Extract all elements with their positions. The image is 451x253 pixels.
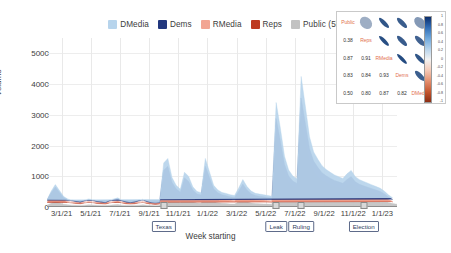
correlation-value: 0.91 (357, 50, 375, 68)
colorbar-tick-label: 0.6 (438, 31, 443, 35)
legend-label-dems: Dems (170, 20, 192, 29)
y-tick-label: 4000 (9, 80, 49, 89)
x-tick-label: 11/1/21 (166, 209, 191, 218)
event-marker (360, 202, 367, 209)
correlation-diagonal-label: Dems (393, 67, 411, 85)
legend-item-rmedia[interactable]: RMedia (201, 20, 242, 29)
correlation-value: 0.80 (357, 85, 375, 103)
correlation-ellipse (357, 14, 375, 32)
legend-swatch-reps (251, 20, 260, 29)
event-label-box[interactable]: Texas (152, 221, 176, 232)
correlation-value: 0.84 (357, 67, 375, 85)
event-label-box[interactable]: Election (349, 221, 379, 232)
y-tick-label: 0 (9, 203, 49, 212)
x-axis-title-text: Week starting (186, 232, 236, 241)
x-tick-label: 1/1/22 (197, 209, 218, 218)
y-tick-label: 1000 (9, 172, 49, 181)
correlation-value: 0.50 (339, 85, 357, 103)
legend-label-dmedia: DMedia (120, 20, 149, 29)
correlation-value: 0.87 (375, 85, 393, 103)
legend-swatch-dems (158, 20, 167, 29)
correlation-grid: Public0.38Reps0.870.91RMedia0.830.840.93… (339, 14, 429, 103)
x-tick-label: 1/1/23 (372, 209, 393, 218)
correlation-value: 0.38 (339, 32, 357, 50)
y-tick-label: 5000 (9, 49, 49, 58)
x-axis-line (47, 206, 397, 207)
event-label-box[interactable]: Ruling (288, 221, 314, 232)
colorbar-tick-label: 1 (441, 14, 443, 18)
correlation-ellipse (375, 14, 393, 32)
x-tick-label: 9/1/21 (139, 209, 160, 218)
colorbar-tick-label: 0 (441, 57, 443, 61)
correlation-ellipse (393, 32, 411, 50)
x-tick-label: 9/1/22 (314, 209, 335, 218)
y-tick-label: 3000 (9, 111, 49, 120)
correlation-diagonal-label: Public (339, 14, 357, 32)
x-tick-label: 5/1/21 (80, 209, 101, 218)
legend-swatch-dmedia (108, 20, 117, 29)
correlation-value: 0.83 (339, 67, 357, 85)
x-tick-label: 5/1/22 (255, 209, 276, 218)
chart-root: DMedia Dems RMedia Reps Public (5k) Volu… (0, 0, 451, 253)
legend-item-dems[interactable]: Dems (158, 20, 192, 29)
correlation-value: 0.87 (339, 50, 357, 68)
x-axis-title: Week starting (0, 232, 451, 241)
x-tick-label: 11/1/22 (341, 209, 366, 218)
colorbar-tick-label: 0.4 (438, 40, 443, 44)
correlation-matrix-inset[interactable]: Public0.38Reps0.870.91RMedia0.830.840.93… (336, 11, 446, 104)
correlation-value: 0.82 (393, 85, 411, 103)
colorbar-tick-label: -0.2 (437, 65, 443, 69)
correlation-ellipse (393, 14, 411, 32)
x-tick-label: 7/1/21 (109, 209, 130, 218)
legend-item-dmedia[interactable]: DMedia (108, 20, 149, 29)
correlation-value: 0.93 (375, 67, 393, 85)
correlation-ellipse (393, 50, 411, 68)
y-tick-label: 2000 (9, 142, 49, 151)
correlation-ellipse (375, 32, 393, 50)
legend-item-reps[interactable]: Reps (251, 20, 283, 29)
correlation-diagonal-label: RMedia (375, 50, 393, 68)
legend-label-rmedia: RMedia (213, 20, 242, 29)
event-marker (160, 202, 167, 209)
x-tick-label: 3/1/21 (51, 209, 72, 218)
event-marker (298, 202, 305, 209)
colorbar-tick-label: -0.6 (437, 82, 443, 86)
colorbar-tick-label: -1 (440, 99, 443, 103)
x-tick-label: 7/1/22 (284, 209, 305, 218)
event-marker (273, 202, 280, 209)
legend-label-reps: Reps (263, 20, 283, 29)
correlation-diagonal-label: Reps (357, 32, 375, 50)
event-label-box[interactable]: Leak (265, 221, 286, 232)
correlation-colorbar (424, 16, 432, 103)
colorbar-tick-label: 0.8 (438, 23, 443, 27)
colorbar-tick-label: 0.2 (438, 48, 443, 52)
colorbar-tick-label: -0.4 (437, 74, 443, 78)
colorbar-tick-label: -0.8 (437, 91, 443, 95)
y-axis-title: Volume (0, 69, 3, 96)
legend-swatch-public (291, 20, 300, 29)
legend-swatch-rmedia (201, 20, 210, 29)
x-tick-label: 3/1/22 (226, 209, 247, 218)
